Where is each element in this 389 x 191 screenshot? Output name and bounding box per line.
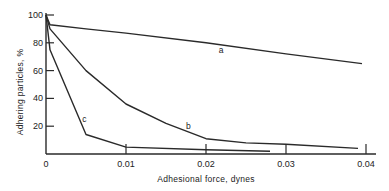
y-axis-title: Adhering particles, % <box>15 49 25 136</box>
curve-label-a: a <box>219 45 224 55</box>
curve-label-b: b <box>186 121 191 131</box>
curve-c <box>46 15 270 151</box>
y-tick-label: 20 <box>33 121 43 131</box>
curve-label-c: c <box>82 114 87 124</box>
x-axis-title: Adhesional force, dynes <box>157 174 255 184</box>
x-tick-label: 0 <box>43 159 48 169</box>
series-group <box>46 15 362 151</box>
x-tick-label: 0.01 <box>117 159 135 169</box>
y-tick-label: 60 <box>33 66 43 76</box>
x-tick-label: 0.03 <box>277 159 295 169</box>
labels-group: Adhesional force, dynesAdhering particle… <box>15 45 255 184</box>
curve-b <box>46 15 358 148</box>
y-tick-label: 40 <box>33 93 43 103</box>
y-tick-label: 100 <box>28 10 43 20</box>
curve-a <box>46 15 362 64</box>
chart: 2040608010000.010.020.030.04 Adhesional … <box>0 0 389 191</box>
x-tick-label: 0.02 <box>197 159 215 169</box>
x-tick-label: 0.04 <box>357 159 375 169</box>
y-tick-label: 80 <box>33 38 43 48</box>
axes: 2040608010000.010.020.030.04 <box>28 10 376 169</box>
